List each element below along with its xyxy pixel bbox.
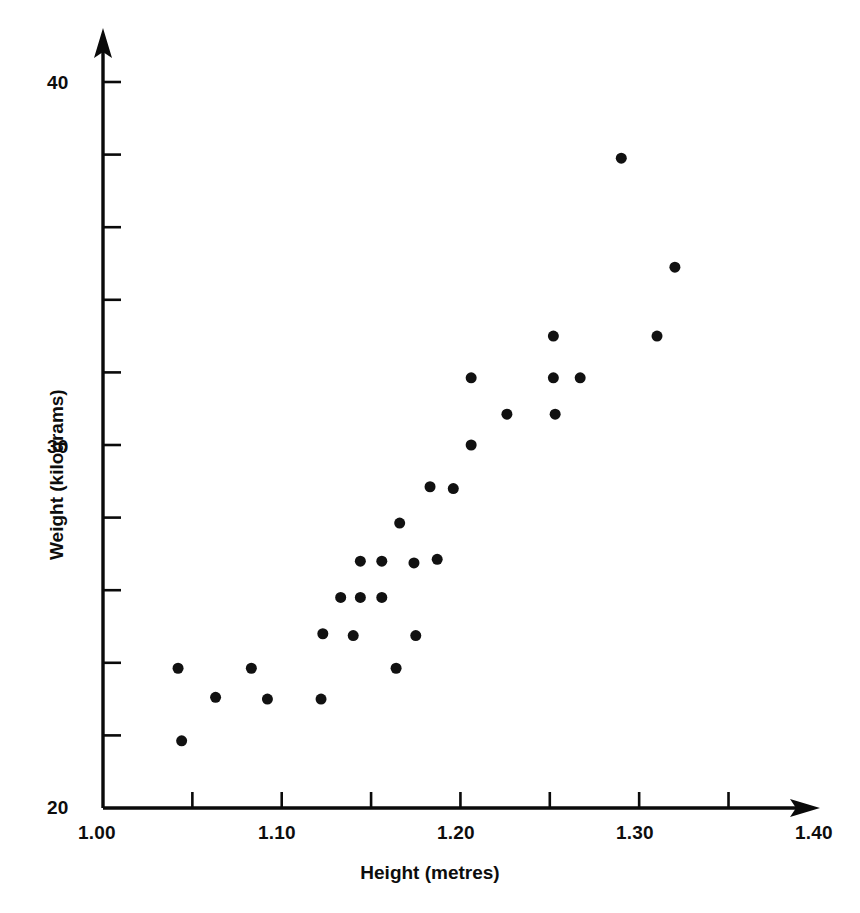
x-tick-label-1-00: 1.00: [78, 822, 116, 844]
data-point: [262, 694, 273, 705]
data-point: [410, 630, 421, 641]
data-point: [550, 409, 561, 420]
data-point: [210, 692, 221, 703]
y-axis-ticks: [103, 82, 121, 735]
data-point: [448, 483, 459, 494]
data-point: [501, 409, 512, 420]
data-point: [652, 331, 663, 342]
data-point: [335, 592, 346, 603]
data-point: [394, 518, 405, 529]
y-tick-label-40: 40: [47, 72, 69, 94]
data-point: [376, 556, 387, 567]
plot-canvas: [0, 0, 860, 913]
data-point: [616, 153, 627, 164]
x-tick-label-1-10: 1.10: [258, 822, 296, 844]
x-tick-label-1-30: 1.30: [616, 822, 654, 844]
y-tick-label-20: 20: [47, 797, 69, 819]
data-point: [246, 663, 257, 674]
data-point: [408, 557, 419, 568]
x-axis-ticks: [192, 792, 728, 808]
data-point: [466, 440, 477, 451]
data-point: [376, 592, 387, 603]
data-point: [425, 481, 436, 492]
data-point: [316, 694, 327, 705]
data-point: [669, 262, 680, 273]
data-point: [391, 663, 402, 674]
scatter-chart-figure: 40 30 20 1.00 1.10 1.20 1.30 1.40 Height…: [0, 0, 860, 913]
x-tick-label-1-20: 1.20: [437, 822, 475, 844]
data-point: [348, 630, 359, 641]
data-point: [466, 372, 477, 383]
data-point: [355, 592, 366, 603]
data-point: [317, 628, 328, 639]
data-point: [176, 735, 187, 746]
x-axis-title: Height (metres): [0, 862, 860, 884]
x-tick-label-1-40: 1.40: [795, 822, 833, 844]
data-points-layer: [173, 153, 681, 747]
data-point: [173, 663, 184, 674]
data-point: [548, 372, 559, 383]
data-point: [575, 372, 586, 383]
data-point: [548, 331, 559, 342]
data-point: [432, 554, 443, 565]
data-point: [355, 556, 366, 567]
y-axis-title: Weight (kilograms): [46, 389, 68, 560]
